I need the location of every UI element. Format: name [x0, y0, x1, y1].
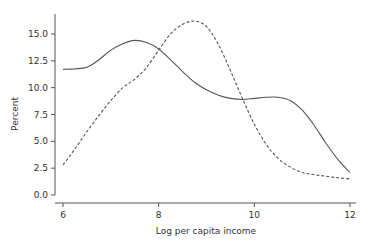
y-tick-label: 15.0 [28, 29, 48, 39]
y-tick-label: 7.5 [34, 110, 48, 120]
density-chart: 0.02.55.07.510.012.515.0 681012 Percent … [0, 0, 369, 251]
x-tick-label: 8 [156, 210, 162, 220]
y-tick-label: 5.0 [34, 136, 49, 146]
y-axis-label: Percent [10, 97, 20, 131]
chart-canvas: 0.02.55.07.510.012.515.0 681012 Percent … [0, 0, 369, 251]
y-tick-label: 0.0 [34, 190, 49, 200]
x-tick-label: 6 [60, 210, 66, 220]
x-tick-label: 12 [344, 210, 355, 220]
y-axis: 0.02.55.07.510.012.515.0 [28, 14, 55, 200]
series-layer [63, 21, 350, 179]
dashed-series-line [63, 21, 350, 179]
x-axis-label: Log per capita income [156, 226, 257, 236]
x-tick-label: 10 [249, 210, 261, 220]
y-tick-label: 12.5 [28, 56, 48, 66]
y-tick-label: 2.5 [34, 163, 48, 173]
y-tick-label: 10.0 [28, 83, 48, 93]
x-axis: 681012 [55, 203, 356, 220]
